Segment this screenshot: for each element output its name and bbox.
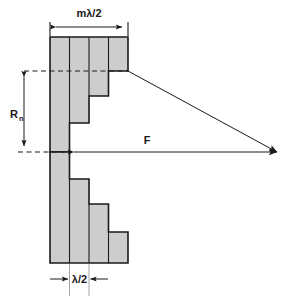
lens-body-lower bbox=[50, 152, 128, 263]
figure-root: mλ/2 R n F λ/2 bbox=[0, 0, 288, 300]
aperture-width-label: mλ/2 bbox=[76, 7, 101, 19]
lens-diagram: mλ/2 R n F λ/2 bbox=[0, 0, 288, 300]
focal-length-label: F bbox=[144, 134, 151, 146]
lens-body-upper bbox=[50, 37, 128, 152]
zone-radius-label: R bbox=[10, 108, 18, 120]
zone-radius-dimension: R n bbox=[10, 77, 24, 146]
zone-radius-subscript-label: n bbox=[19, 114, 24, 123]
focal-distance-dimension: F bbox=[74, 134, 277, 152]
step-width-dimension: λ/2 bbox=[50, 264, 108, 296]
step-width-label: λ/2 bbox=[72, 273, 87, 285]
aperture-dimension: mλ/2 bbox=[50, 7, 128, 36]
